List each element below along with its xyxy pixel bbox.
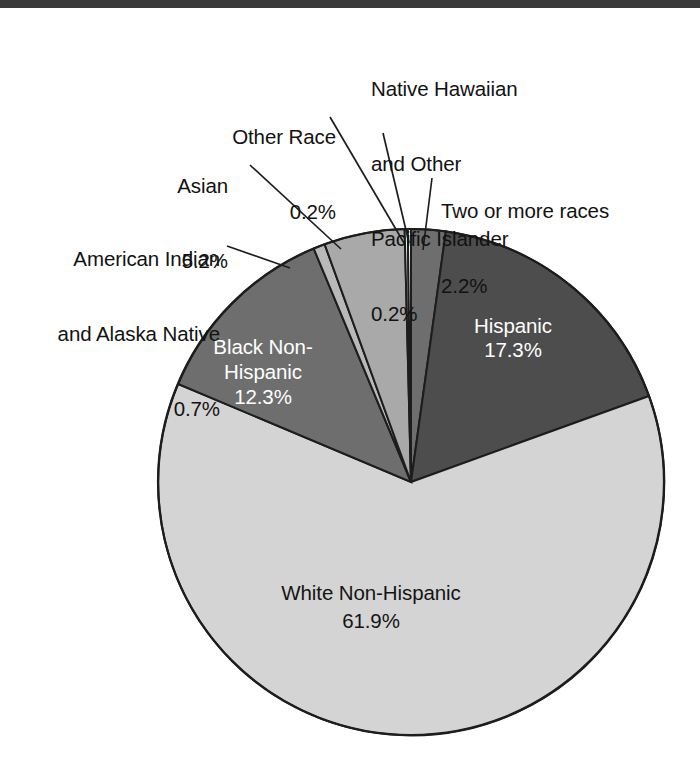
callout-two-or-more-races-line1: Two or more races (441, 198, 681, 223)
slice-label-white-non-hispanic-name: White Non-Hispanic (281, 581, 460, 604)
callout-native-hawaiian-line1: Native Hawaiian (371, 76, 571, 101)
callout-american-indian-line2: and Alaska Native (8, 321, 220, 346)
slice-label-white-non-hispanic-value: 61.9% (342, 609, 400, 632)
callout-two-or-more-races: Two or more races 2.2% (441, 148, 681, 348)
pie-chart-figure: Hispanic 17.3% Black Non- Hispanic 12.3%… (0, 0, 700, 763)
slice-label-black-non-hispanic-line1: Black Non- (213, 335, 312, 358)
callout-american-indian-line1: American Indian (8, 246, 220, 271)
slice-label-black-non-hispanic-value: 12.3% (234, 385, 292, 408)
callout-two-or-more-races-value: 2.2% (441, 273, 681, 298)
callout-american-indian-value: 0.7% (8, 396, 220, 421)
slice-label-black-non-hispanic-line2: Hispanic (224, 360, 302, 383)
callout-american-indian: American Indian and Alaska Native 0.7% (8, 196, 220, 471)
callout-asian-line1: Asian (60, 173, 228, 198)
